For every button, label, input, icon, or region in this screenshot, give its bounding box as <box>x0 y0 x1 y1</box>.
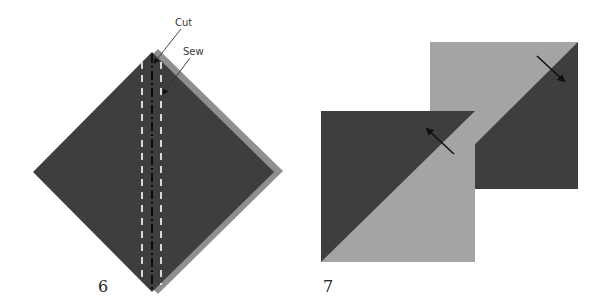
step-number-6: 6 <box>98 277 108 296</box>
cut-label: Cut <box>175 17 192 28</box>
quilting-diagram: Cut Sew 6 7 <box>0 0 608 306</box>
step-7-diagram: 7 <box>321 42 578 296</box>
sew-label: Sew <box>183 46 204 57</box>
step-number-7: 7 <box>323 277 333 296</box>
step-6-diagram: Cut Sew 6 <box>33 17 283 296</box>
front-square-diamond <box>33 52 274 292</box>
front-half-square-triangle <box>321 111 475 262</box>
cut-leader-arrow <box>154 29 181 63</box>
